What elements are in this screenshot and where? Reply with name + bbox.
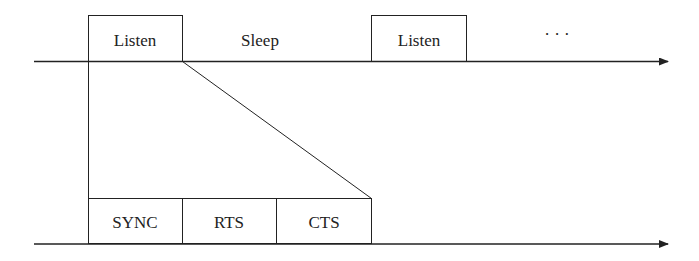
rts-label: RTS <box>214 213 244 232</box>
listen-period-1: Listen <box>89 16 183 62</box>
expansion-line-diagonal <box>183 62 372 199</box>
cts-label: CTS <box>308 213 339 232</box>
listen-label-1: Listen <box>114 31 157 50</box>
listen-sleep-timing-diagram: Listen Sleep Listen · · · SYNC RTS CTS <box>0 0 699 261</box>
continuation-ellipsis: · · · <box>544 25 569 44</box>
listen-period-2: Listen <box>372 16 467 62</box>
sync-label: SYNC <box>112 213 157 232</box>
listen-label-2: Listen <box>398 31 441 50</box>
listen-frame-breakdown: SYNC RTS CTS <box>89 199 372 244</box>
sleep-label: Sleep <box>241 31 279 50</box>
